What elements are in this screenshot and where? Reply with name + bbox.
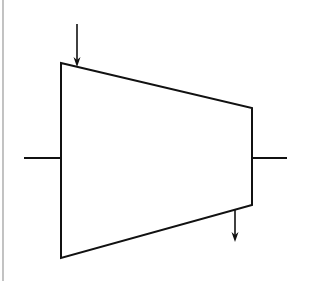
turbine-diagram — [0, 0, 311, 281]
turbine-body — [61, 63, 252, 258]
